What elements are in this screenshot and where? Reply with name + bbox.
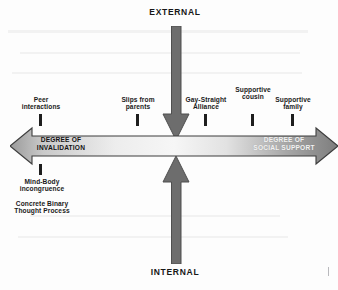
node-label-concrete-binary-thought-process: Concrete Binary Thought Process (4, 200, 80, 215)
degree-of-invalidation-label: DEGREE OF INVALIDATION (25, 136, 97, 151)
tick-mark-supportive-family (291, 114, 294, 126)
scan-artifact (18, 236, 288, 238)
tick-mark-peer-interactions (39, 114, 42, 126)
page-edge-mark (328, 267, 329, 276)
external-pole-label: EXTERNAL (135, 8, 215, 18)
tick-mark-mind-body-incongruence (39, 164, 42, 175)
external-to-internal-arrow (159, 26, 193, 142)
node-label-slips-from-parents: Slips from parents (109, 96, 167, 111)
node-label-supportive-family: Supportive family (264, 96, 322, 111)
tick-mark-supportive-cousin (251, 114, 254, 126)
tick-mark-gay-straight-alliance (204, 114, 207, 126)
scan-artifact (30, 215, 280, 217)
node-label-mind-body-incongruence: Mind-Body incongruence (8, 178, 76, 193)
degree-of-social-support-label: DEGREE OF SOCIAL SUPPORT (245, 136, 323, 151)
tick-mark-slips-from-parents (136, 114, 139, 126)
diagram-canvas: EXTERNAL Peer interactions Slips from pa… (0, 0, 338, 290)
internal-to-external-arrow (159, 156, 193, 264)
scan-artifact (8, 30, 308, 33)
internal-pole-label: INTERNAL (135, 268, 215, 278)
scan-artifact (12, 72, 302, 74)
node-label-peer-interactions: Peer interactions (12, 96, 70, 111)
